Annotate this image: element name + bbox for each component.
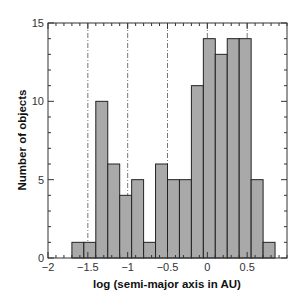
y-tick-label: 10 [32,95,44,107]
y-tick-label: 15 [32,17,44,29]
histogram-chart: −2−1.5−1−0.500.5 051015 log (semi-major … [0,0,303,299]
y-tick-label: 0 [38,252,44,264]
y-tick-labels: 051015 [32,17,44,264]
x-tick-label: 0 [204,261,210,273]
histogram-bar [215,54,227,258]
x-tick-label: −0.5 [157,261,179,273]
bars [72,39,275,258]
histogram-bar [239,39,251,258]
histogram-bar [144,242,156,258]
histogram-bar [179,180,191,258]
histogram-bar [168,180,180,258]
histogram-bar [227,39,239,258]
histogram-bar [72,242,84,258]
histogram-bar [251,180,263,258]
y-tick-label: 5 [38,174,44,186]
histogram-bar [156,164,168,258]
x-tick-label: −1.5 [77,261,99,273]
x-tick-label: −1 [121,261,134,273]
x-tick-labels: −2−1.5−1−0.500.5 [42,261,255,273]
x-axis-label: log (semi-major axis in AU) [93,278,241,290]
histogram-bar [132,180,144,258]
x-tick-label: 0.5 [240,261,255,273]
y-axis-label: Number of objects [16,90,28,191]
histogram-bar [263,242,275,258]
histogram-bar [84,242,96,258]
histogram-bar [120,195,132,258]
histogram-bar [96,101,108,258]
histogram-bar [108,164,120,258]
histogram-bar [203,39,215,258]
histogram-bar [191,86,203,258]
